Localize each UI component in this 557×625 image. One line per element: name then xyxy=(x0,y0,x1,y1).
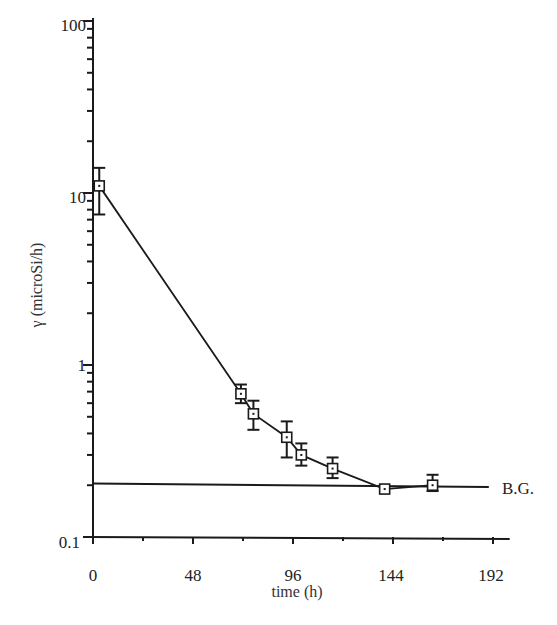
y-axis-label: γ (microSi/h) xyxy=(28,243,46,329)
x-axis-label: time (h) xyxy=(271,583,322,601)
marker-dot xyxy=(384,488,386,490)
decay-chart: 100 10 1 0.1 0 48 96 144 192 time (h) γ … xyxy=(0,0,557,625)
marker-dot xyxy=(332,468,334,470)
y-tick-10: 10 xyxy=(69,188,86,207)
y-tick-1: 1 xyxy=(78,356,87,375)
x-tick-0: 0 xyxy=(89,566,98,585)
x-tick-144: 144 xyxy=(378,566,404,585)
y-tick-100: 100 xyxy=(61,16,87,35)
marker-dot xyxy=(286,436,288,438)
marker-dot xyxy=(300,454,302,456)
data-series xyxy=(93,168,489,494)
x-tick-48: 48 xyxy=(185,566,202,585)
marker-dot xyxy=(240,393,242,395)
x-tick-192: 192 xyxy=(478,566,504,585)
marker-dot xyxy=(252,413,254,415)
background-label: B.G. xyxy=(502,479,534,498)
y-tick-0-1: 0.1 xyxy=(59,533,80,552)
decay-line xyxy=(99,186,432,489)
marker-dot xyxy=(98,185,100,187)
marker-dot xyxy=(432,484,434,486)
x-axis-line xyxy=(87,537,510,539)
